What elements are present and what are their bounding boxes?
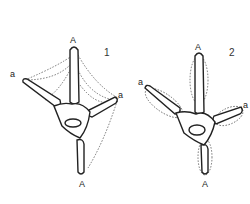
- toe-left: [23, 79, 61, 107]
- toe-right: [213, 107, 242, 124]
- panel-number: 2: [229, 47, 235, 58]
- panel-1: A a a A 1: [10, 35, 123, 189]
- label-top: A: [70, 35, 76, 45]
- label-bottom: A: [202, 179, 208, 189]
- panel-number: 1: [104, 47, 110, 58]
- label-left: a: [10, 69, 15, 79]
- label-top: A: [195, 42, 201, 52]
- toe-right: [88, 97, 117, 117]
- toe-top: [195, 53, 204, 114]
- palm-pad: [65, 119, 81, 127]
- footprint-diagram: A a a A 1 A a a A 2: [0, 0, 250, 204]
- dashed-line: [78, 70, 113, 100]
- toe-top: [70, 47, 79, 104]
- label-bottom: A: [79, 179, 85, 189]
- toe-bottom: [77, 140, 84, 175]
- dashed-line: [78, 55, 118, 98]
- label-left: a: [138, 77, 143, 87]
- palm-pad: [189, 125, 205, 135]
- dashed-line: [80, 85, 110, 102]
- toe-bottom: [201, 145, 208, 175]
- label-right: a: [243, 100, 248, 110]
- dashed-line: [25, 55, 73, 80]
- panel-2: A a a A 2: [138, 42, 248, 189]
- toe-left: [145, 85, 180, 114]
- dashed-line: [25, 65, 70, 80]
- label-right: a: [118, 90, 123, 100]
